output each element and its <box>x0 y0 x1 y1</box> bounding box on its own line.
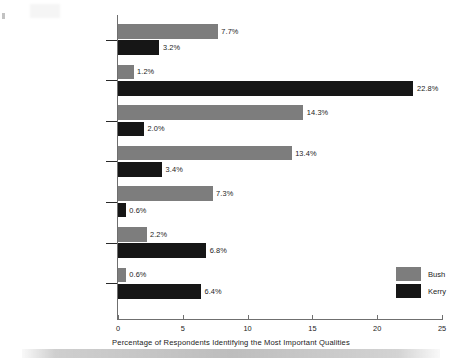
bar-kerry <box>118 40 159 55</box>
bar-bush <box>118 65 134 80</box>
bar-bush <box>118 186 213 201</box>
category-tick <box>106 202 117 203</box>
x-tick-label: 0 <box>116 324 120 333</box>
legend-label: Bush <box>428 270 445 279</box>
x-tick-label: 15 <box>308 324 316 333</box>
bar-bush <box>118 227 147 242</box>
x-axis-title: Percentage of Respondents Identifying th… <box>0 338 462 347</box>
x-tick <box>442 315 443 319</box>
legend-swatch-icon <box>396 267 421 281</box>
bar-value-label: 6.4% <box>204 287 221 296</box>
category-tick <box>106 121 117 122</box>
legend-item-bush[interactable]: Bush <box>396 267 445 281</box>
bar-bush <box>118 146 292 161</box>
category-tick <box>106 80 117 81</box>
bar-value-label: 2.0% <box>147 124 164 133</box>
bar-bush <box>118 268 126 283</box>
x-tick <box>312 315 313 319</box>
x-tick <box>377 315 378 319</box>
bar-value-label: 14.3% <box>307 108 328 117</box>
x-tick-label: 25 <box>438 324 446 333</box>
bar-value-label: 3.2% <box>163 43 180 52</box>
bar-kerry <box>118 243 206 258</box>
bar-value-label: 3.4% <box>166 165 183 174</box>
x-tick-label: 20 <box>373 324 381 333</box>
legend-item-kerry[interactable]: Kerry <box>396 284 446 298</box>
bar-value-label: 0.6% <box>129 206 146 215</box>
bar-value-label: 2.2% <box>150 230 167 239</box>
category-tick <box>106 243 117 244</box>
bar-kerry <box>118 122 144 137</box>
x-axis-line <box>117 319 443 320</box>
bar-value-label: 13.4% <box>295 149 316 158</box>
bar-kerry <box>118 81 413 96</box>
category-axis-labels <box>0 0 104 320</box>
bar-kerry <box>118 162 162 177</box>
bar-kerry <box>118 203 126 218</box>
bar-kerry <box>118 284 201 299</box>
horizontal-bar-chart: 7.7%3.2%1.2%22.8%14.3%2.0%13.4%3.4%7.3%0… <box>0 0 462 364</box>
category-tick <box>106 283 117 284</box>
bar-value-label: 6.8% <box>210 246 227 255</box>
bar-value-label: 1.2% <box>137 67 154 76</box>
page-edge-band <box>22 349 440 358</box>
category-tick <box>106 161 117 162</box>
bar-value-label: 7.7% <box>221 27 238 36</box>
bar-value-label: 7.3% <box>216 189 233 198</box>
y-axis-line <box>117 15 118 319</box>
x-tick-label: 5 <box>181 324 185 333</box>
bar-bush <box>118 105 303 120</box>
x-tick <box>118 315 119 319</box>
legend-label: Kerry <box>428 287 446 296</box>
bar-value-label: 0.6% <box>129 270 146 279</box>
x-tick <box>248 315 249 319</box>
bar-value-label: 22.8% <box>417 84 438 93</box>
category-tick <box>106 40 117 41</box>
x-tick-label: 10 <box>243 324 251 333</box>
x-tick <box>183 315 184 319</box>
bar-bush <box>118 24 218 39</box>
legend-swatch-icon <box>396 284 421 298</box>
